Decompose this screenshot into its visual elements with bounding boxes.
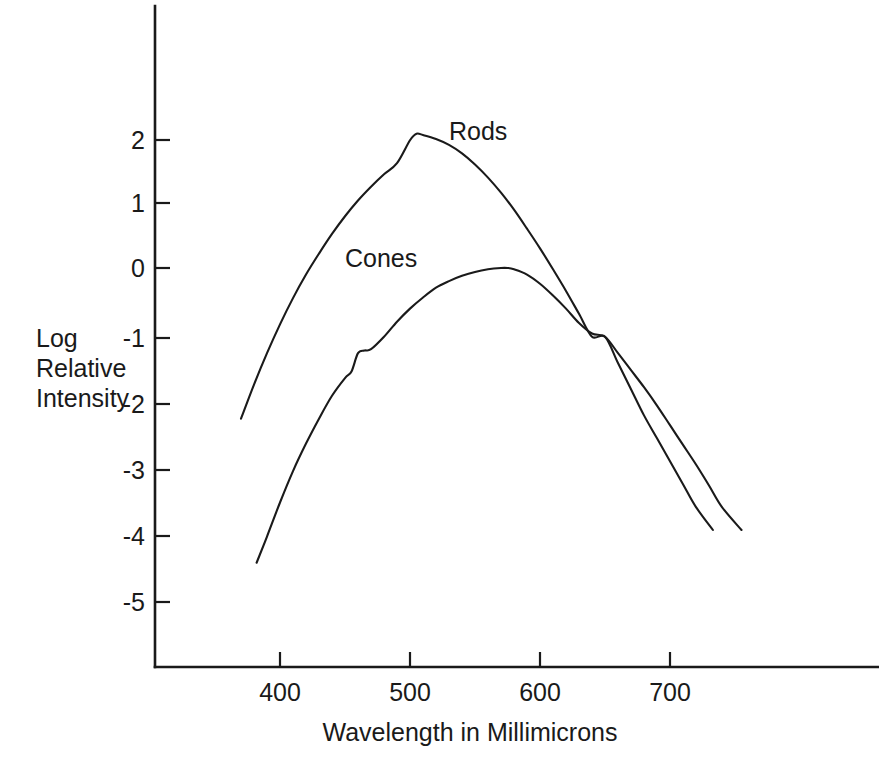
series-label-rods: Rods: [449, 117, 507, 145]
y-tick-label-0: 0: [131, 254, 145, 282]
y-tick-label-2: 2: [131, 126, 145, 154]
y-tick-marks: [155, 140, 170, 602]
x-tick-marks: [280, 652, 670, 667]
y-axis-title-line-1: Log: [36, 324, 78, 352]
rods-curve: [241, 133, 713, 530]
x-tick-label-500: 500: [389, 678, 431, 706]
y-tick-label-1: 1: [131, 189, 145, 217]
y-tick-label-neg5: -5: [123, 588, 145, 616]
x-tick-label-400: 400: [259, 678, 301, 706]
y-axis-title-line-2: Relative: [36, 354, 126, 382]
spectral-sensitivity-chart: 2 1 0 -1 -2 -3 -4 -5 400 500 600 700 Wav…: [0, 0, 879, 757]
cones-curve: [257, 268, 742, 563]
y-axis-title-line-3: Intensity: [36, 384, 130, 412]
series-label-cones: Cones: [345, 244, 417, 272]
x-tick-label-600: 600: [519, 678, 561, 706]
figure-container: 2 1 0 -1 -2 -3 -4 -5 400 500 600 700 Wav…: [0, 0, 879, 757]
x-tick-label-700: 700: [649, 678, 691, 706]
x-axis-title: Wavelength in Millimicrons: [323, 718, 618, 746]
y-tick-label-neg1: -1: [123, 324, 145, 352]
y-tick-label-neg3: -3: [123, 456, 145, 484]
y-tick-label-neg4: -4: [123, 522, 145, 550]
